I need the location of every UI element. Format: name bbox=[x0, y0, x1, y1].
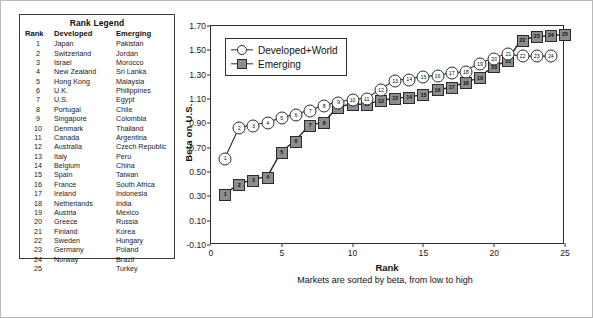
cell-developed: Netherlands bbox=[54, 198, 116, 207]
data-point-developed: 5 bbox=[275, 112, 288, 125]
cell-rank: 17 bbox=[25, 189, 54, 198]
cell-emerging: Sri Lanka bbox=[116, 67, 169, 76]
x-axis-tick-mark bbox=[565, 243, 566, 247]
data-point-developed: 3 bbox=[247, 119, 260, 132]
y-axis-tick-mark bbox=[207, 147, 211, 148]
cell-developed: Israel bbox=[54, 58, 116, 67]
x-axis-tick-mark bbox=[352, 243, 353, 247]
x-axis-tick-label: 25 bbox=[560, 248, 570, 258]
table-row: 8PortugalChile bbox=[25, 105, 169, 114]
rank-legend-title: Rank Legend bbox=[25, 18, 169, 28]
data-point-emerging: 25 bbox=[559, 29, 571, 41]
data-point-developed: 22 bbox=[516, 50, 529, 63]
plot-area: Developed+World Emerging -0.100.100.300.… bbox=[210, 25, 564, 244]
table-row: 5Hong KongMalaysia bbox=[25, 77, 169, 86]
cell-developed: Italy bbox=[54, 152, 116, 161]
cell-rank: 15 bbox=[25, 170, 54, 179]
x-axis-title: Rank bbox=[210, 262, 564, 273]
cell-emerging: Malaysia bbox=[116, 77, 169, 86]
cell-emerging: Egypt bbox=[116, 95, 169, 104]
x-axis-tick-label: 10 bbox=[348, 248, 358, 258]
cell-rank: 16 bbox=[25, 180, 54, 189]
data-point-emerging: 22 bbox=[517, 35, 529, 47]
data-point-developed: 17 bbox=[445, 67, 458, 80]
cell-rank: 1 bbox=[25, 39, 54, 48]
y-axis-tick-label: 0.10 bbox=[189, 216, 206, 226]
cell-emerging: China bbox=[116, 161, 169, 170]
cell-developed: U.K. bbox=[54, 86, 116, 95]
column-header-rank: Rank bbox=[25, 29, 54, 39]
x-axis-tick-mark bbox=[423, 243, 424, 247]
data-point-developed: 7 bbox=[304, 105, 317, 118]
x-axis-tick-label: 0 bbox=[209, 248, 214, 258]
cell-emerging: Philippines bbox=[116, 86, 169, 95]
data-point-developed: 20 bbox=[488, 52, 501, 65]
table-row: 7U.S.Egypt bbox=[25, 95, 169, 104]
cell-rank: 9 bbox=[25, 114, 54, 123]
data-point-emerging: 16 bbox=[432, 84, 444, 96]
legend-label-developed: Developed+World bbox=[258, 45, 338, 56]
legend-entry-developed: Developed+World bbox=[231, 43, 338, 57]
data-point-developed: 13 bbox=[389, 74, 402, 87]
cell-emerging: Argentina bbox=[116, 133, 169, 142]
cell-developed: Portugal bbox=[54, 105, 116, 114]
table-row: 19AustriaMexico bbox=[25, 208, 169, 217]
data-point-emerging: 5 bbox=[276, 147, 288, 159]
cell-developed: Ireland bbox=[54, 189, 116, 198]
cell-rank: 14 bbox=[25, 161, 54, 170]
data-point-developed: 24 bbox=[544, 50, 557, 63]
y-axis-tick-label: -0.10 bbox=[186, 240, 206, 250]
cell-emerging: Thailand bbox=[116, 123, 169, 132]
column-header-emerging: Emerging bbox=[116, 29, 169, 39]
data-point-developed: 2 bbox=[233, 122, 246, 135]
open-circle-marker-icon bbox=[231, 44, 253, 56]
cell-emerging: Mexico bbox=[116, 208, 169, 217]
data-point-developed: 14 bbox=[403, 73, 416, 86]
table-row: 3IsraelMorocco bbox=[25, 58, 169, 67]
data-point-developed: 4 bbox=[261, 117, 274, 130]
data-point-emerging: 14 bbox=[403, 92, 415, 104]
table-row: 9SingaporeColombia bbox=[25, 114, 169, 123]
data-point-emerging: 13 bbox=[389, 93, 401, 105]
cell-emerging: Taiwan bbox=[116, 170, 169, 179]
series-legend: Developed+World Emerging bbox=[225, 38, 347, 76]
x-axis-tick-mark bbox=[494, 243, 495, 247]
cell-rank: 6 bbox=[25, 86, 54, 95]
cell-developed: Belgium bbox=[54, 161, 116, 170]
data-point-emerging: 1 bbox=[219, 189, 231, 201]
cell-developed: Japan bbox=[54, 39, 116, 48]
cell-emerging: South Africa bbox=[116, 180, 169, 189]
cell-rank: 7 bbox=[25, 95, 54, 104]
table-row: 6U.K.Philippines bbox=[25, 86, 169, 95]
data-point-emerging: 3 bbox=[247, 175, 259, 187]
y-axis-tick-label: 0.90 bbox=[189, 118, 206, 128]
cell-rank: 8 bbox=[25, 105, 54, 114]
data-point-developed: 15 bbox=[417, 71, 430, 84]
cell-rank: 11 bbox=[25, 133, 54, 142]
cell-developed: Hong Kong bbox=[54, 77, 116, 86]
x-axis-tick-label: 15 bbox=[419, 248, 429, 258]
y-axis-tick-label: 0.70 bbox=[189, 143, 206, 153]
rank-legend-panel: Rank Legend Rank Developed Emerging 1Jap… bbox=[19, 14, 175, 259]
cell-rank: 24 bbox=[25, 255, 54, 264]
data-point-emerging: 24 bbox=[545, 30, 557, 42]
y-axis-tick-mark bbox=[207, 220, 211, 221]
table-row: 18NetherlandsIndia bbox=[25, 198, 169, 207]
data-point-developed: 10 bbox=[346, 94, 359, 107]
table-row: 25Turkey bbox=[25, 264, 169, 273]
data-point-developed: 6 bbox=[289, 108, 302, 121]
cell-developed: Austria bbox=[54, 208, 116, 217]
table-row: 15SpainTaiwan bbox=[25, 170, 169, 179]
table-row: 10DenmarkThailand bbox=[25, 123, 169, 132]
cell-emerging: Poland bbox=[116, 245, 169, 254]
y-axis-tick-mark bbox=[207, 123, 211, 124]
cell-developed bbox=[54, 264, 116, 273]
cell-developed: France bbox=[54, 180, 116, 189]
table-row: 2SwitzerlandJordan bbox=[25, 48, 169, 57]
y-axis-tick-label: 1.70 bbox=[189, 21, 206, 31]
data-point-emerging: 19 bbox=[474, 72, 486, 84]
table-row: 13ItalyPeru bbox=[25, 152, 169, 161]
data-point-developed: 23 bbox=[530, 50, 543, 63]
table-row: 24NorwayBrazil bbox=[25, 255, 169, 264]
data-point-emerging: 18 bbox=[460, 77, 472, 89]
